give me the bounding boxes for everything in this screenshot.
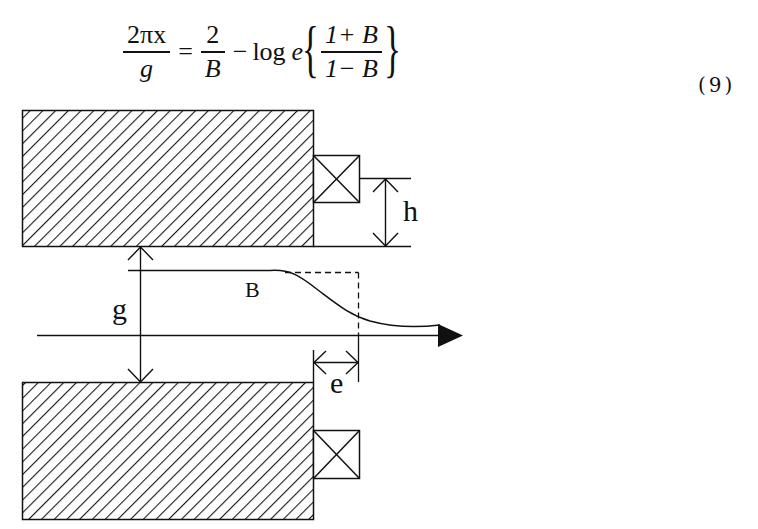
label-B: B bbox=[245, 279, 260, 301]
axis-arrow bbox=[37, 324, 463, 347]
g-dimension bbox=[128, 247, 153, 382]
electron-lens-diagram bbox=[0, 0, 758, 529]
ideal-step-dashed bbox=[285, 273, 359, 383]
bottom-coil-icon bbox=[314, 431, 360, 479]
label-h: h bbox=[403, 196, 418, 226]
bottom-pole-piece bbox=[23, 383, 314, 520]
label-e: e bbox=[330, 368, 343, 398]
top-coil-icon bbox=[314, 156, 360, 203]
label-g: g bbox=[112, 294, 127, 324]
top-pole-piece bbox=[23, 111, 314, 247]
field-profile-curve bbox=[128, 270, 440, 326]
arrowhead-icon bbox=[438, 324, 463, 347]
